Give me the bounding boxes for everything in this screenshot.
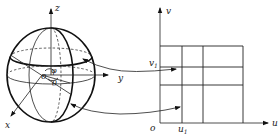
z-axis-label: z	[54, 3, 60, 13]
u1-label: u1	[178, 124, 188, 135]
theta-label: θ	[52, 79, 57, 88]
u-axis-label: u	[272, 118, 278, 128]
v1-label: v1	[149, 58, 158, 69]
x-axis	[11, 75, 42, 116]
sphere-origin-label: o	[41, 71, 47, 81]
sphere: z y x o φ θ	[5, 3, 124, 130]
v-axis-label: v	[166, 6, 171, 16]
x-axis-label: x	[5, 120, 10, 130]
y-axis-label: y	[117, 73, 124, 83]
mapping-arrow-upper-back	[83, 59, 110, 69]
sphere-to-plane-mapping-diagram: z y x o φ θ v u o u1 v1	[0, 0, 279, 135]
mapping-arrow-upper	[110, 69, 176, 72]
plane-origin-label: o	[150, 123, 156, 133]
phi-label: φ	[51, 66, 57, 75]
uv-plane: v u o u1 v1	[149, 6, 278, 135]
mapping-arrow-lower	[120, 107, 180, 114]
equator-front	[7, 75, 95, 84]
